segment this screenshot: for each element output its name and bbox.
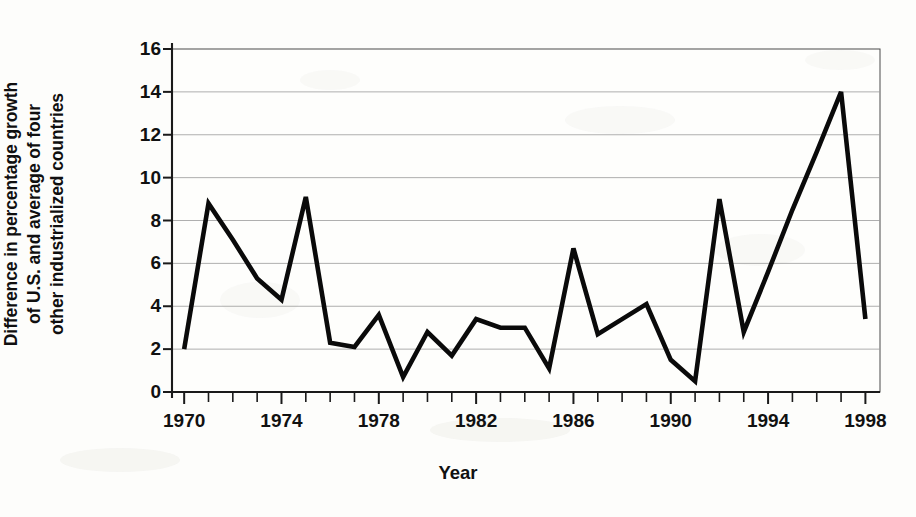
chart-figure: Difference in percentage growth of U.S. … [0, 0, 916, 517]
x-tick-label-1982: 1982 [455, 410, 497, 432]
y-tick-label-10: 10 [121, 167, 161, 189]
y-tick-label-14: 14 [121, 81, 161, 103]
y-axis-title-line-2: of U.S. and average of four [23, 0, 46, 428]
x-tick-label-1974: 1974 [260, 410, 302, 432]
x-axis-tick-labels: 19701974197819821986199019941998 [0, 410, 916, 440]
x-tick-label-1970: 1970 [163, 410, 205, 432]
y-axis-title-line-3: other industrialized countries [46, 0, 69, 428]
x-tick-label-1978: 1978 [358, 410, 400, 432]
y-tick-label-8: 8 [121, 210, 161, 232]
y-axis-title-line-1: Difference in percentage growth [1, 82, 21, 346]
x-tick-label-1986: 1986 [552, 410, 594, 432]
y-tick-label-2: 2 [121, 338, 161, 360]
y-tick-label-4: 4 [121, 295, 161, 317]
y-axis-title: Difference in percentage growth of U.S. … [0, 0, 69, 428]
y-tick-label-16: 16 [121, 38, 161, 60]
y-axis-title-container: Difference in percentage growth of U.S. … [0, 0, 80, 440]
x-tick-label-1994: 1994 [747, 410, 789, 432]
y-axis [163, 43, 172, 398]
y-tick-label-6: 6 [121, 252, 161, 274]
x-tick-label-1998: 1998 [844, 410, 886, 432]
y-tick-label-0: 0 [121, 381, 161, 403]
y-tick-label-12: 12 [121, 124, 161, 146]
x-axis [164, 392, 880, 404]
x-axis-title: Year [0, 462, 916, 484]
x-tick-label-1990: 1990 [650, 410, 692, 432]
